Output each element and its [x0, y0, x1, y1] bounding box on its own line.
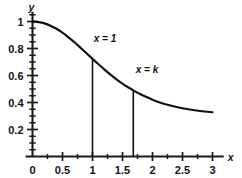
x-axis-label: x [227, 151, 235, 163]
chart-figure: 0.20.40.60.81 00.511.522.53 x = 1x = k y… [0, 0, 242, 178]
x-tick-label: 1 [89, 164, 95, 176]
y-tick-label: 0.2 [8, 124, 23, 136]
data-curve [33, 22, 213, 113]
y-tick-label: 0.8 [8, 43, 23, 55]
annotation-vertical-lines [93, 59, 134, 157]
x-axis-tick-labels: 00.511.522.53 [29, 164, 215, 176]
y-tick-label: 0.6 [8, 70, 23, 82]
x-tick-label: 3 [209, 164, 215, 176]
x-tick-label: 2 [149, 164, 155, 176]
chart-plot-area: 0.20.40.60.81 00.511.522.53 x = 1x = k y… [0, 0, 242, 178]
y-tick-label: 1 [17, 16, 23, 28]
x-tick-label: 0 [29, 164, 35, 176]
x-tick-label: 2.5 [175, 164, 190, 176]
x-tick-label: 1.5 [115, 164, 130, 176]
y-tick-label: 0.4 [8, 97, 24, 109]
y-axis-tick-labels: 0.20.40.60.81 [8, 16, 24, 136]
x-tick-label: 0.5 [55, 164, 70, 176]
annotation-label-x-equals-k: x = k [135, 64, 159, 75]
annotation-label-x-equals-1: x = 1 [93, 33, 117, 44]
y-axis-label: y [28, 1, 36, 13]
